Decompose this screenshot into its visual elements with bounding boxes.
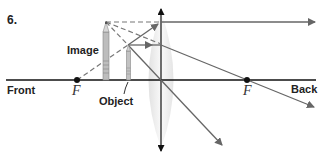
ray-diagram-svg bbox=[0, 0, 320, 153]
object-pencil bbox=[127, 45, 131, 80]
object-label: Object bbox=[99, 96, 133, 107]
front-label: Front bbox=[7, 85, 35, 96]
image-pencil bbox=[103, 22, 109, 81]
problem-number: 6. bbox=[7, 14, 17, 26]
object-leader-line bbox=[124, 82, 128, 94]
focal-label-left: F bbox=[72, 84, 81, 98]
back-label: Back bbox=[291, 84, 317, 95]
lens-diagram: 6. Image Object Front Back F F bbox=[0, 0, 320, 153]
focal-label-right: F bbox=[243, 84, 252, 98]
image-label: Image bbox=[67, 45, 99, 56]
